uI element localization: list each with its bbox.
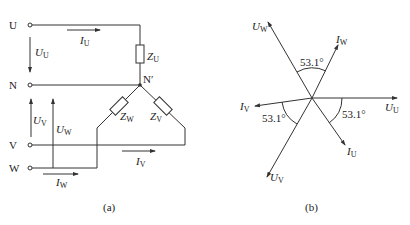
impedance-zu bbox=[136, 45, 144, 63]
terminal-u-label: U bbox=[9, 19, 17, 31]
wire-zw-branch bbox=[97, 85, 140, 168]
three-phase-circuit: U N V W ZU N′ ZW ZV UU UV UW bbox=[9, 19, 185, 214]
phasor-uw-label: UW bbox=[252, 20, 268, 34]
voltage-uw-label: UW bbox=[56, 123, 72, 137]
impedance-zu-label: ZU bbox=[147, 50, 159, 64]
terminal-n bbox=[28, 83, 32, 87]
phasor-iu-label: IU bbox=[346, 145, 357, 159]
angle-label-left: 53.1° bbox=[262, 112, 286, 124]
terminal-n-label: N bbox=[9, 79, 17, 91]
voltage-uv-label: UV bbox=[33, 114, 47, 128]
impedance-zw-label: ZW bbox=[120, 110, 134, 124]
phasor-iv bbox=[255, 98, 312, 106]
terminal-v bbox=[28, 143, 32, 147]
current-iu-label: IU bbox=[79, 34, 90, 48]
caption-a: (a) bbox=[103, 201, 116, 214]
angle-label-top: 53.1° bbox=[300, 56, 324, 68]
angle-label-right: 53.1° bbox=[342, 108, 366, 120]
impedance-zv-label: ZV bbox=[150, 110, 162, 124]
phasor-uv-label: UV bbox=[270, 171, 284, 185]
phasor-iw bbox=[312, 45, 338, 98]
current-iv-label: IV bbox=[135, 155, 146, 169]
current-iw-label: IW bbox=[55, 176, 68, 190]
neutral-point-label: N′ bbox=[143, 73, 153, 85]
terminal-w-label: W bbox=[9, 162, 20, 174]
phasor-diagram: UU IU UV IV UW IW 53.1° 53.1° 53.1° (b) bbox=[239, 20, 399, 214]
phasor-uu-label: UU bbox=[385, 101, 399, 115]
caption-b: (b) bbox=[305, 201, 318, 214]
terminal-u bbox=[28, 23, 32, 27]
voltage-uu-label: UU bbox=[35, 46, 49, 60]
angle-arc-top bbox=[297, 68, 326, 72]
terminal-v-label: V bbox=[9, 139, 17, 151]
phasor-iu bbox=[312, 98, 345, 145]
angle-arc-right bbox=[329, 98, 342, 123]
phasor-iv-label: IV bbox=[239, 100, 250, 114]
phasor-iw-label: IW bbox=[335, 33, 348, 47]
circuit-and-phasor-figure: U N V W ZU N′ ZW ZV UU UV UW bbox=[0, 0, 410, 225]
impedance-zv bbox=[154, 97, 172, 115]
phasor-uv bbox=[267, 98, 312, 177]
terminal-w bbox=[28, 166, 32, 170]
wire-zv-branch bbox=[140, 85, 185, 145]
